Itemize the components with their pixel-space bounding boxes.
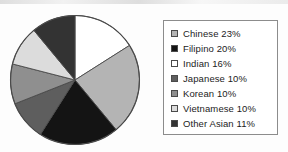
legend-item: Vietnamese 10% [171, 101, 277, 116]
legend-swatch-icon [171, 75, 178, 82]
legend-item: Chinese 23% [171, 26, 277, 41]
legend-item-label: Chinese 23% [183, 28, 241, 39]
pie-slice-group [11, 16, 140, 145]
legend-swatch-icon [171, 45, 178, 52]
chart-legend: Chinese 23%Filipino 20%Indian 16%Japanes… [163, 20, 278, 135]
legend-item: Other Asian 11% [171, 116, 277, 131]
legend-item-label: Other Asian 11% [183, 118, 255, 129]
legend-item-label: Filipino 20% [183, 43, 236, 54]
legend-item: Korean 10% [171, 86, 277, 101]
legend-swatch-icon [171, 30, 178, 37]
legend-item: Japanese 10% [171, 71, 277, 86]
legend-item: Indian 16% [171, 56, 277, 71]
legend-swatch-icon [171, 60, 178, 67]
legend-item-label: Vietnamese 10% [183, 103, 256, 114]
figure-container: Chinese 23%Filipino 20%Indian 16%Japanes… [0, 0, 288, 152]
legend-item-label: Korean 10% [183, 88, 236, 99]
legend-item: Filipino 20% [171, 41, 277, 56]
pie-chart [8, 13, 142, 147]
legend-item-label: Indian 16% [183, 58, 232, 69]
legend-swatch-icon [171, 120, 178, 127]
legend-swatch-icon [171, 105, 178, 112]
legend-swatch-icon [171, 90, 178, 97]
pie-chart-svg [8, 13, 142, 147]
scan-artifact-band [0, 0, 288, 4]
legend-item-label: Japanese 10% [183, 73, 247, 84]
